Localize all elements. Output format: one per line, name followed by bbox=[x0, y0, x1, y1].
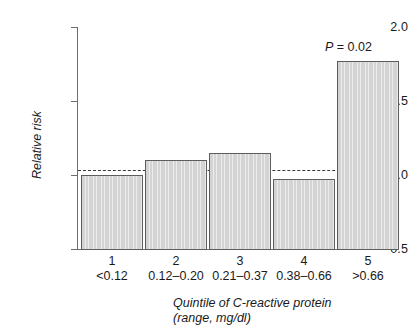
y-axis-tick-1.5 bbox=[71, 101, 78, 102]
bar-quintile-5 bbox=[337, 61, 399, 250]
x-axis-group-4: 4 0.38–0.66 bbox=[268, 254, 340, 284]
x-axis-range-2: 0.12–0.20 bbox=[140, 269, 212, 284]
x-axis-group-1: 1 <0.12 bbox=[82, 254, 142, 284]
x-axis-range-1: <0.12 bbox=[82, 269, 142, 284]
x-axis-group-5: 5 >0.66 bbox=[338, 254, 398, 284]
x-axis-caption-line-1: Quintile of C-reactive protein bbox=[173, 296, 331, 311]
p-value-number: = 0.02 bbox=[333, 40, 372, 54]
x-axis-range-5: >0.66 bbox=[338, 269, 398, 284]
x-axis-caption-line-2: (range, mg/dl) bbox=[173, 311, 331, 326]
x-axis-quintile-1: 1 bbox=[82, 254, 142, 269]
y-axis-title: Relative risk bbox=[30, 90, 44, 200]
x-axis-group-2: 2 0.12–0.20 bbox=[140, 254, 212, 284]
x-axis-caption: Quintile of C-reactive protein (range, m… bbox=[173, 296, 331, 326]
bar-quintile-2 bbox=[145, 160, 207, 250]
x-axis-range-3: 0.21–0.37 bbox=[204, 269, 276, 284]
y-axis-tick-2.0 bbox=[71, 27, 78, 28]
relative-risk-bar-chart-figure: 2.0 1.5 1.0 0.5 Relative risk P = 0.02 1… bbox=[0, 0, 408, 336]
x-axis-group-3: 3 0.21–0.37 bbox=[204, 254, 276, 284]
bar-quintile-1 bbox=[81, 175, 143, 250]
plot-area: 2.0 1.5 1.0 0.5 Relative risk P = 0.02 1… bbox=[0, 0, 408, 336]
x-axis-quintile-4: 4 bbox=[268, 254, 340, 269]
y-axis-tick-0.5 bbox=[71, 249, 78, 250]
y-axis-line bbox=[77, 27, 78, 249]
bar-quintile-4 bbox=[273, 179, 335, 250]
y-axis-tick-1.0 bbox=[71, 175, 78, 176]
y-axis-label-2.0: 2.0 bbox=[372, 20, 408, 34]
x-axis-quintile-3: 3 bbox=[204, 254, 276, 269]
x-axis-range-4: 0.38–0.66 bbox=[268, 269, 340, 284]
p-value-annotation: P = 0.02 bbox=[325, 40, 372, 54]
bar-quintile-3 bbox=[209, 153, 271, 250]
x-axis-quintile-5: 5 bbox=[338, 254, 398, 269]
x-axis-quintile-2: 2 bbox=[140, 254, 212, 269]
